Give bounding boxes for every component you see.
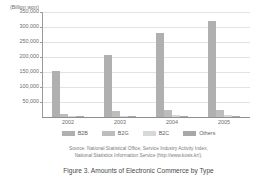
plot-area: 350,000300,000250,000200,000150,000100,0… [42, 12, 250, 118]
y-tick-mark [40, 72, 43, 73]
x-axis-line [42, 117, 250, 118]
y-tick-mark [40, 12, 43, 13]
source-line-1: Source: National Statistical Office, Ser… [0, 145, 277, 152]
legend-item[interactable]: B2G [102, 131, 129, 136]
bar [68, 116, 76, 117]
bar [120, 116, 128, 118]
legend-swatch-icon [143, 131, 156, 136]
legend-label: Others [199, 131, 215, 136]
bar-group [52, 12, 84, 117]
y-tick-mark [40, 27, 43, 28]
bar [180, 116, 188, 117]
y-tick-mark [40, 102, 43, 103]
legend-item[interactable]: B2C [143, 131, 170, 136]
source-line-2: National Statistics Information Service … [0, 152, 277, 159]
x-tick-label: 2003 [94, 120, 146, 125]
y-tick-mark [40, 57, 43, 58]
bar [224, 115, 232, 117]
bar [60, 114, 68, 117]
bar [52, 71, 60, 117]
bar [216, 110, 224, 118]
figure-container: (Billion won) 350,000300,000250,000200,0… [0, 0, 277, 183]
y-tick-label: 50,000 [23, 99, 40, 104]
y-tick-label: 150,000 [20, 69, 40, 74]
bar [164, 110, 172, 117]
legend-label: B2C [159, 131, 170, 136]
figure-caption: Figure 3. Amounts of Electronic Commerce… [0, 168, 277, 175]
x-tick-label: 2002 [42, 120, 94, 125]
y-tick-label: 200,000 [20, 54, 40, 59]
chart-legend: B2BB2GB2COthers [0, 131, 277, 136]
legend-label: B2B [78, 131, 88, 136]
x-tick-label: 2004 [146, 120, 198, 125]
bar [172, 115, 180, 117]
y-tick-label: 350,000 [20, 9, 40, 14]
bar [76, 116, 84, 117]
legend-item[interactable]: B2B [62, 131, 88, 136]
bar-group [156, 12, 188, 117]
y-tick-mark [40, 87, 43, 88]
y-tick-label: 100,000 [20, 84, 40, 89]
legend-swatch-icon [102, 131, 115, 136]
bar [104, 55, 112, 117]
bar [208, 21, 216, 117]
bar-group [208, 12, 240, 117]
legend-label: B2G [118, 131, 129, 136]
y-tick-label: 250,000 [20, 39, 40, 44]
bar [128, 116, 136, 117]
y-tick-mark [40, 42, 43, 43]
x-tick-label: 2005 [198, 120, 250, 125]
bar [232, 116, 240, 117]
y-tick-label: 300,000 [20, 24, 40, 29]
legend-swatch-icon [62, 131, 75, 136]
bar [112, 111, 120, 117]
bar-group [104, 12, 136, 117]
bar [156, 33, 164, 117]
legend-item[interactable]: Others [183, 131, 215, 136]
legend-swatch-icon [183, 131, 196, 136]
source-note: Source: National Statistical Office, Ser… [0, 145, 277, 160]
